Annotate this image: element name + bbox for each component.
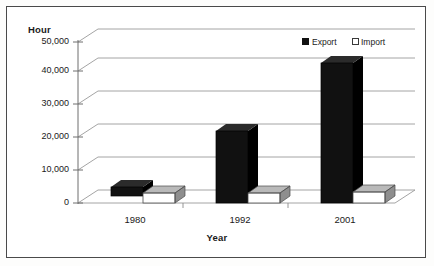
legend-label-export: Export: [312, 38, 337, 47]
y-tick-label-20000: 20,000: [19, 132, 69, 141]
chart-frame: Hour 50,000 40,000 30,000 20,000 10,000 …: [6, 6, 426, 258]
legend-swatch-import: [352, 38, 359, 45]
chart-page: Hour 50,000 40,000 30,000 20,000 10,000 …: [0, 0, 434, 266]
x-axis-title: Year: [7, 233, 427, 243]
legend-swatch-export: [302, 38, 309, 45]
bar-import-2001: [353, 185, 395, 203]
x-tick-label-2001: 2001: [315, 215, 375, 225]
bar-export-2001: [321, 56, 363, 203]
bar-import-1980: [143, 186, 185, 203]
y-tick-label-10000: 10,000: [19, 165, 69, 174]
x-tick-label-1992: 1992: [210, 215, 270, 225]
y-axis-title: Hour: [28, 25, 51, 35]
y-tick-label-0: 0: [19, 198, 69, 207]
legend-label-import: Import: [361, 38, 385, 47]
y-tick-label-40000: 40,000: [19, 66, 69, 75]
plot-area: Hour 50,000 40,000 30,000 20,000 10,000 …: [7, 7, 427, 259]
x-tick-label-1980: 1980: [105, 215, 165, 225]
y-tick-label-30000: 30,000: [19, 99, 69, 108]
bar-import-1992: [248, 186, 290, 203]
y-tick-label-50000: 50,000: [19, 37, 69, 46]
